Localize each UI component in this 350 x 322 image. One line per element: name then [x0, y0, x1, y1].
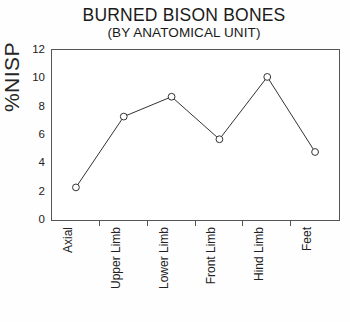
x-tick-label-wrap: Upper Limb	[116, 228, 130, 314]
data-line	[76, 77, 315, 188]
data-point-marker	[168, 93, 175, 100]
y-axis-tick-labels: 024681012	[13, 49, 45, 219]
y-tick-label: 2	[15, 185, 45, 197]
y-tick-label: 6	[15, 128, 45, 140]
x-tick-label-wrap: Feet	[307, 228, 321, 314]
x-tick-label-wrap: Lower Limb	[164, 228, 178, 314]
x-tick-label: Lower Limb	[158, 227, 171, 321]
y-tick-label: 0	[15, 213, 45, 225]
x-tick-label: Axial	[62, 227, 75, 321]
title-block: BURNED BISON BONES (BY ANATOMICAL UNIT)	[0, 6, 350, 41]
chart-subtitle: (BY ANATOMICAL UNIT)	[18, 25, 350, 41]
x-tick-label: Upper Limb	[110, 227, 123, 321]
data-point-marker	[312, 149, 319, 156]
chart-figure: BURNED BISON BONES (BY ANATOMICAL UNIT) …	[0, 0, 350, 322]
x-tick-label: Front Limb	[205, 227, 218, 321]
x-tick-mark	[242, 220, 243, 226]
y-tick-label: 8	[15, 100, 45, 112]
data-point-marker	[264, 74, 271, 81]
x-tick-mark	[290, 220, 291, 226]
plot-area	[51, 49, 340, 221]
y-tick-label: 10	[15, 71, 45, 83]
data-point-marker	[73, 184, 80, 191]
data-point-marker	[216, 136, 223, 143]
x-tick-mark	[99, 220, 100, 226]
x-tick-label-wrap: Hind Limb	[259, 228, 273, 314]
x-tick-label: Feet	[301, 227, 314, 321]
line-series-svg	[52, 50, 339, 220]
x-tick-mark	[195, 220, 196, 226]
chart-title: BURNED BISON BONES	[18, 6, 350, 25]
x-tick-label-wrap: Axial	[68, 228, 82, 314]
x-tick-label: Hind Limb	[253, 227, 266, 321]
data-point-marker	[120, 113, 127, 120]
y-tick-label: 4	[15, 156, 45, 168]
y-tick-label: 12	[15, 43, 45, 55]
x-tick-mark	[147, 220, 148, 226]
x-tick-label-wrap: Front Limb	[211, 228, 225, 314]
